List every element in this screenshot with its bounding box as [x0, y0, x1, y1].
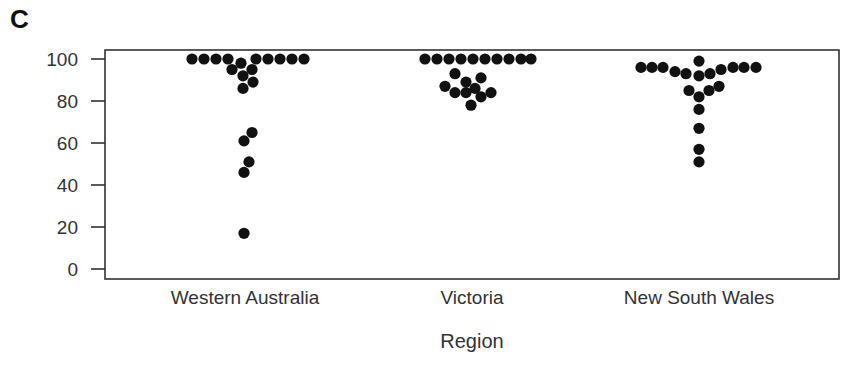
x-axis-title: Region: [440, 330, 503, 352]
data-point: [460, 77, 471, 88]
data-point: [693, 156, 704, 167]
data-point: [419, 53, 430, 64]
y-axis: 020406080100: [46, 49, 105, 280]
data-point: [250, 53, 261, 64]
series-new-south-wales: [635, 56, 761, 168]
data-point: [237, 70, 248, 81]
data-point: [491, 53, 502, 64]
data-point: [243, 156, 254, 167]
data-point: [431, 53, 442, 64]
data-point: [439, 81, 450, 92]
data-point: [693, 144, 704, 155]
series-western-australia: [186, 53, 309, 239]
data-point: [646, 62, 657, 73]
data-point: [274, 53, 285, 64]
category-label-victoria: Victoria: [440, 287, 503, 308]
data-point: [750, 62, 761, 73]
data-point: [727, 62, 738, 73]
y-tick-label: 20: [57, 217, 78, 238]
data-point: [693, 123, 704, 134]
data-point: [683, 85, 694, 96]
data-point: [704, 68, 715, 79]
data-point: [238, 135, 249, 146]
data-point: [465, 100, 476, 111]
data-point: [525, 53, 536, 64]
data-point: [237, 83, 248, 94]
data-point: [503, 53, 514, 64]
data-point: [479, 53, 490, 64]
data-point: [693, 104, 704, 115]
data-point: [680, 68, 691, 79]
data-point: [693, 91, 704, 102]
data-point: [738, 62, 749, 73]
data-point: [485, 87, 496, 98]
data-point: [286, 53, 297, 64]
data-point: [460, 87, 471, 98]
series-victoria: [419, 53, 536, 110]
data-point: [669, 66, 680, 77]
data-point: [515, 53, 526, 64]
beeswarm-chart: 020406080100 Western Australia Victoria …: [0, 0, 848, 365]
y-tick-label: 100: [46, 49, 78, 70]
y-tick-label: 40: [57, 175, 78, 196]
data-point: [235, 58, 246, 69]
data-point: [238, 167, 249, 178]
data-point: [455, 53, 466, 64]
data-point: [449, 87, 460, 98]
data-point: [657, 62, 668, 73]
data-points: [186, 53, 761, 239]
data-point: [443, 53, 454, 64]
y-tick-label: 0: [67, 259, 78, 280]
data-point: [693, 70, 704, 81]
data-point: [713, 81, 724, 92]
category-label-new-south-wales: New South Wales: [624, 287, 774, 308]
data-point: [238, 228, 249, 239]
y-tick-label: 80: [57, 91, 78, 112]
data-point: [210, 53, 221, 64]
data-point: [715, 64, 726, 75]
data-point: [693, 56, 704, 67]
data-point: [703, 85, 714, 96]
category-label-western-australia: Western Australia: [171, 287, 320, 308]
data-point: [247, 77, 258, 88]
data-point: [298, 53, 309, 64]
data-point: [475, 91, 486, 102]
data-point: [635, 62, 646, 73]
data-point: [475, 72, 486, 83]
y-tick-label: 60: [57, 133, 78, 154]
data-point: [246, 127, 257, 138]
data-point: [226, 64, 237, 75]
data-point: [449, 68, 460, 79]
data-point: [467, 53, 478, 64]
data-point: [198, 53, 209, 64]
x-axis: Western Australia Victoria New South Wal…: [171, 287, 774, 352]
data-point: [186, 53, 197, 64]
data-point: [222, 53, 233, 64]
data-point: [262, 53, 273, 64]
data-point: [246, 64, 257, 75]
